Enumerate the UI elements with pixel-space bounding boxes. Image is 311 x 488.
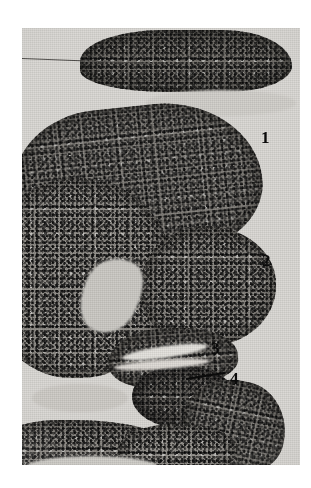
annotation-label-4: 4 — [230, 370, 239, 387]
cleft-lower-left — [32, 384, 128, 412]
annotation-label-3: 3 — [211, 340, 220, 357]
micrograph-field — [22, 28, 300, 465]
annotation-label-1: 1 — [261, 129, 270, 146]
figure-plate: 1 2 3 4 — [0, 0, 311, 488]
annotation-label-2: 2 — [262, 252, 271, 269]
